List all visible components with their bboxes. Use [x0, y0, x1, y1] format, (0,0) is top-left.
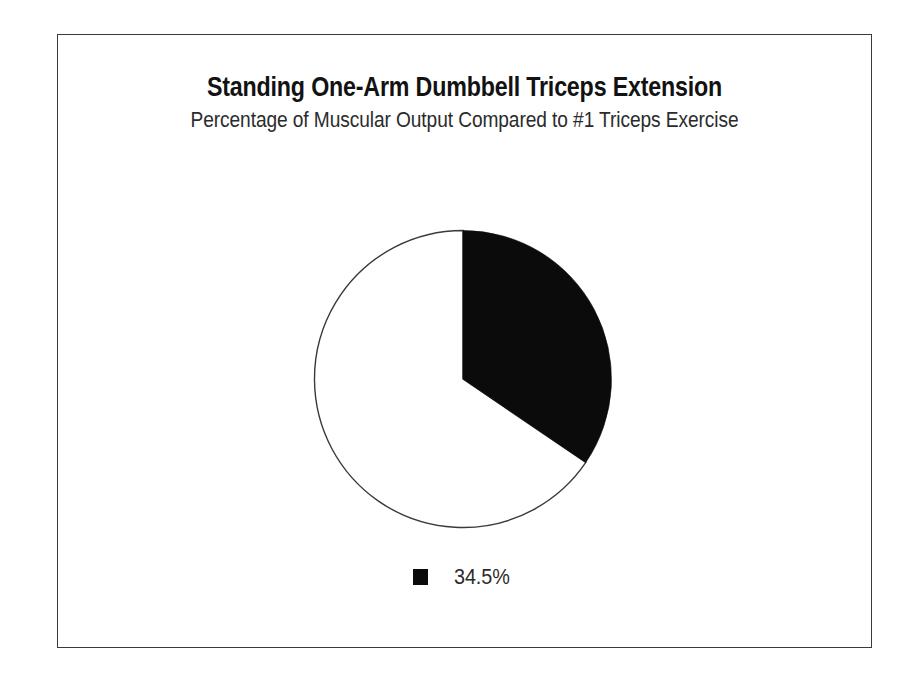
page-title: Standing One-Arm Dumbbell Triceps Extens…	[115, 73, 814, 102]
legend-item-label: 34.5%	[454, 564, 510, 590]
chart-subtitle: Percentage of Muscular Output Compared t…	[111, 108, 818, 132]
pie-chart-svg	[313, 229, 613, 529]
title-block: Standing One-Arm Dumbbell Triceps Extens…	[58, 73, 871, 132]
chart-frame: Standing One-Arm Dumbbell Triceps Extens…	[57, 34, 872, 648]
chart-legend: 34.5%	[58, 564, 871, 590]
legend-swatch-icon	[413, 569, 428, 585]
pie-chart	[313, 229, 613, 529]
legend-item: 34.5%	[413, 564, 516, 590]
